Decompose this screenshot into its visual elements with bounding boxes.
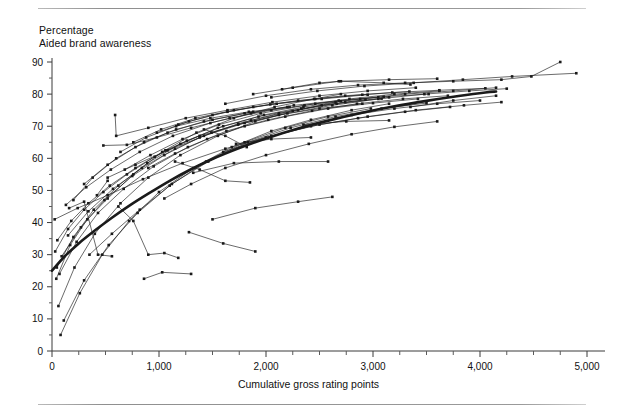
data-point-marker [271, 101, 274, 104]
data-point-marker [107, 244, 110, 247]
data-point-marker [55, 277, 58, 280]
data-point-marker [68, 207, 71, 210]
data-point-marker [65, 204, 68, 207]
data-point-marker [417, 98, 420, 101]
data-point-marker [112, 188, 115, 191]
series-line [193, 162, 328, 173]
data-point-marker [83, 183, 86, 186]
data-point-marker [310, 88, 313, 91]
y-tick-label: 70 [32, 121, 44, 132]
data-point-marker [233, 109, 236, 112]
data-point-marker [361, 93, 364, 96]
data-point-marker [158, 191, 161, 194]
data-point-marker [143, 141, 146, 144]
data-point-marker [415, 109, 418, 112]
data-point-marker [337, 80, 340, 83]
y-tick-label: 0 [37, 346, 43, 357]
data-point-marker [70, 220, 73, 223]
data-point-marker [254, 250, 257, 253]
data-point-marker [171, 183, 174, 186]
data-point-marker [452, 99, 455, 102]
data-point-marker [438, 89, 441, 92]
data-point-marker [132, 141, 135, 144]
data-point-marker [284, 127, 287, 130]
data-point-marker [412, 82, 415, 85]
data-point-marker [259, 112, 262, 115]
data-point-marker [106, 176, 109, 179]
data-point-marker [62, 319, 65, 322]
data-point-marker [67, 234, 70, 237]
data-point-marker [217, 127, 220, 130]
data-point-marker [320, 104, 323, 107]
data-point-marker [163, 197, 166, 200]
data-point-marker [500, 78, 503, 81]
data-point-marker [126, 144, 129, 147]
data-point-marker [211, 119, 214, 122]
data-point-marker [75, 241, 78, 244]
data-point-marker [500, 101, 503, 104]
data-point-marker [83, 200, 86, 203]
data-point-marker [308, 143, 311, 146]
data-point-marker [327, 160, 330, 163]
x-tick-label: 0 [49, 361, 55, 372]
data-point-marker [188, 231, 191, 234]
data-point-marker [235, 143, 238, 146]
data-point-marker [59, 334, 62, 337]
data-point-marker [192, 171, 195, 174]
data-point-marker [103, 199, 106, 202]
series-line [56, 94, 341, 279]
data-point-marker [505, 87, 508, 90]
data-point-marker [350, 109, 353, 112]
data-point-marker [224, 102, 227, 105]
data-point-marker [174, 160, 177, 163]
data-point-marker [284, 115, 287, 118]
data-point-marker [366, 93, 369, 96]
data-point-marker [462, 78, 465, 81]
data-point-marker [54, 250, 57, 253]
data-point-marker [149, 154, 152, 157]
data-point-marker [138, 151, 141, 154]
data-point-marker [88, 253, 91, 256]
data-point-marker [449, 106, 452, 109]
data-point-marker [286, 106, 289, 109]
data-point-marker [388, 78, 391, 81]
data-point-marker [495, 94, 498, 97]
data-point-marker [511, 75, 514, 78]
line-chart-plot: 010203040506070809001,0002,0003,0004,000… [0, 0, 617, 415]
x-tick-label: 5,000 [574, 361, 599, 372]
series-line [118, 207, 178, 258]
data-point-marker [119, 202, 122, 205]
data-point-marker [143, 277, 146, 280]
data-point-marker [96, 194, 99, 197]
data-point-marker [190, 127, 193, 130]
series-line [69, 202, 112, 257]
data-point-marker [58, 273, 61, 276]
data-point-marker [83, 279, 86, 282]
x-tick-label: 4,000 [467, 361, 492, 372]
data-point-marker [249, 181, 252, 184]
data-point-marker [265, 94, 268, 97]
data-point-marker [318, 94, 321, 97]
data-point-marker [357, 117, 360, 120]
data-point-marker [278, 160, 281, 163]
data-point-marker [463, 104, 466, 107]
data-point-marker [484, 87, 487, 90]
data-point-marker [224, 135, 227, 138]
data-point-marker [181, 138, 184, 141]
y-tick-label: 90 [32, 57, 44, 68]
data-point-marker [161, 271, 164, 274]
data-point-marker [388, 102, 391, 105]
data-point-marker [408, 90, 411, 93]
data-point-marker [198, 168, 201, 171]
data-point-marker [559, 61, 562, 64]
data-point-marker [224, 147, 227, 150]
data-point-marker [357, 84, 360, 87]
data-point-marker [270, 96, 273, 99]
data-point-marker [224, 167, 227, 170]
series-line [189, 232, 255, 251]
data-point-marker [348, 98, 351, 101]
data-point-marker [123, 168, 126, 171]
data-point-marker [211, 218, 214, 221]
data-point-marker [111, 232, 114, 235]
data-point-marker [218, 123, 221, 126]
